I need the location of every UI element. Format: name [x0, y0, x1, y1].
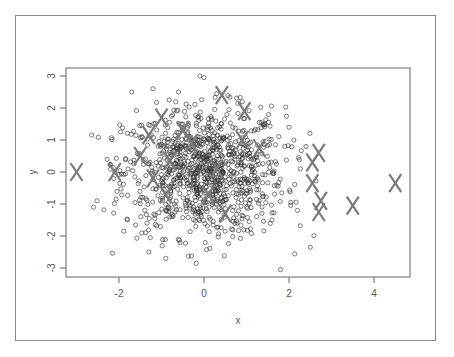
x-marker [71, 163, 83, 181]
data-point [137, 179, 141, 183]
data-point [229, 184, 233, 188]
data-point [144, 213, 148, 217]
data-point [96, 135, 100, 139]
data-point [202, 131, 206, 135]
x-marker [219, 205, 231, 223]
x-marker [347, 197, 359, 215]
data-point [164, 131, 168, 135]
data-point [112, 202, 116, 206]
x-axis-label: x [236, 315, 241, 326]
data-point [198, 74, 202, 78]
data-point [245, 216, 249, 220]
data-point [122, 229, 126, 233]
data-point [267, 112, 271, 116]
data-point [194, 224, 198, 228]
data-point [131, 129, 135, 133]
data-point [151, 87, 155, 91]
data-point [168, 120, 172, 124]
data-point [262, 145, 266, 149]
data-point [91, 205, 95, 209]
data-point [156, 194, 160, 198]
data-point [229, 159, 233, 163]
data-point [178, 192, 182, 196]
data-point [176, 237, 180, 241]
data-point [289, 203, 293, 207]
data-point [144, 231, 148, 235]
data-point [147, 216, 151, 220]
data-point [273, 192, 277, 196]
x-marker [147, 169, 159, 187]
data-point [255, 184, 259, 188]
data-point [292, 138, 296, 142]
data-point [308, 245, 312, 249]
data-point [308, 131, 312, 135]
data-point [228, 121, 232, 125]
data-point [110, 251, 114, 255]
data-point [135, 236, 139, 240]
data-point [249, 129, 253, 133]
data-point [262, 219, 266, 223]
scatter-plot: -2024 -3-2-10123 x y [0, 0, 454, 357]
data-point [227, 108, 231, 112]
data-point [139, 215, 143, 219]
data-point [222, 117, 226, 121]
data-point [214, 119, 218, 123]
circle-points-layer [90, 74, 319, 272]
data-point [182, 185, 186, 189]
data-point [130, 90, 134, 94]
data-point [269, 104, 273, 108]
data-point [175, 109, 179, 113]
data-point [90, 133, 94, 137]
y-axis-label: y [27, 170, 38, 175]
data-point [234, 188, 238, 192]
data-point [215, 92, 219, 96]
data-point [284, 114, 288, 118]
data-point [231, 235, 235, 239]
data-point [126, 193, 130, 197]
data-point [172, 108, 176, 112]
data-point [236, 111, 240, 115]
data-point [164, 202, 168, 206]
data-point [278, 268, 282, 272]
data-point [293, 182, 297, 186]
data-point [143, 208, 147, 212]
data-point [266, 181, 270, 185]
data-point [270, 218, 274, 222]
data-point [119, 130, 123, 134]
data-point [267, 161, 271, 165]
data-point [273, 143, 277, 147]
x-tick-label: 2 [286, 288, 292, 299]
data-point [186, 215, 190, 219]
data-point [223, 229, 227, 233]
data-point [164, 256, 168, 260]
data-point [174, 100, 178, 104]
data-point [148, 236, 152, 240]
data-point [245, 205, 249, 209]
y-tick-label: 2 [46, 105, 57, 111]
x-marker [238, 102, 250, 120]
data-point [212, 206, 216, 210]
data-point [222, 254, 226, 258]
data-point [269, 203, 273, 207]
data-point [280, 191, 284, 195]
data-point [118, 123, 122, 127]
data-point [230, 209, 234, 213]
data-point [267, 170, 271, 174]
data-point [236, 209, 240, 213]
y-tick-label: -1 [46, 199, 57, 208]
data-point [131, 169, 135, 173]
data-point [293, 252, 297, 256]
data-point [144, 174, 148, 178]
data-point [140, 231, 144, 235]
data-point [112, 211, 116, 215]
data-point [231, 125, 235, 129]
y-tick-label: 0 [46, 169, 57, 175]
data-point [205, 224, 209, 228]
data-point [120, 193, 124, 197]
data-point [261, 181, 265, 185]
data-point [150, 165, 154, 169]
data-point [146, 228, 150, 232]
x-axis: -2024 [115, 277, 378, 299]
data-point [163, 238, 167, 242]
data-point [115, 189, 119, 193]
